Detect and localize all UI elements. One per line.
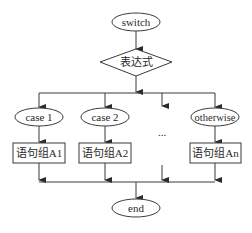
block-label-2: 语句组A2 [82,146,128,159]
start-label: switch [122,16,151,28]
switch-flowchart: switch 表达式 case 1 case 2 otherwise ... 语… [0,0,252,233]
end-node: end [112,199,160,217]
end-label: end [128,202,144,214]
start-node: switch [112,13,160,31]
case-node-otherwise: otherwise [191,108,239,126]
condition-label: 表达式 [120,55,153,68]
block-label-1: 语句组A1 [16,146,62,159]
block-node-otherwise: 语句组An [190,143,241,163]
case-node-1: case 1 [15,108,63,126]
case-label-1: case 1 [25,111,52,123]
block-label-otherwise: 语句组An [192,146,239,159]
case-label-2: case 2 [91,111,118,123]
block-node-2: 语句组A2 [79,143,131,163]
case-label-otherwise: otherwise [195,112,236,123]
ellipsis-label: ... [158,126,167,138]
case-node-2: case 2 [81,108,129,126]
block-node-1: 语句组A1 [13,143,65,163]
condition-node: 表达式 [100,49,172,76]
